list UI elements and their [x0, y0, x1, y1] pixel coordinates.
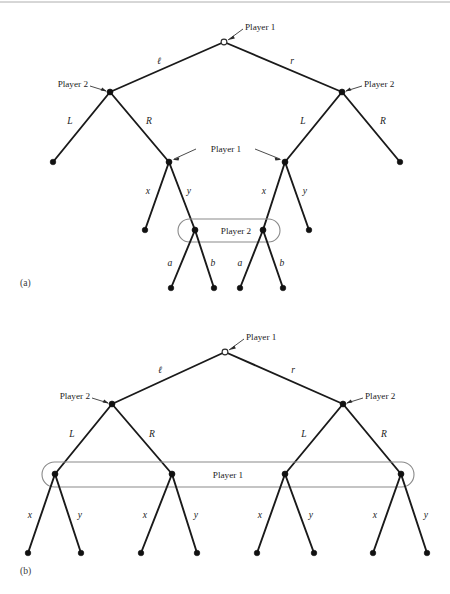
pointer-head-right-p2-b [346, 400, 352, 404]
label-right-player2-a: Player 2 [364, 79, 395, 89]
terminal-node-b-4 [194, 550, 200, 556]
pointer-head-root-a [228, 36, 235, 40]
label-action-x-b-1: x [27, 509, 33, 520]
label-root-player1-a: Player 1 [245, 22, 276, 32]
edge-infoL-a-a [171, 230, 195, 288]
edge-left-p2-L-a [53, 92, 110, 162]
label-action-x-b-4: x [372, 509, 378, 520]
edge-right-p2-R-a [342, 92, 400, 162]
label-action-R-right-b: R [380, 428, 387, 439]
label-mid-player1-a: Player 1 [211, 144, 242, 154]
label-action-x-b-2: x [142, 509, 148, 520]
node-mid-right-player1-a[interactable] [282, 159, 288, 165]
terminal-node-b-6 [311, 550, 317, 556]
pointer-head-left-p2-b [103, 400, 109, 404]
label-action-y-b-4: y [423, 509, 429, 520]
label-action-L-left-b: L [68, 428, 74, 439]
terminal-node-a-7 [237, 285, 243, 291]
node-infoset-player1-b-4[interactable] [398, 471, 404, 477]
edge-left-p2-R-b [112, 404, 172, 474]
label-action-x-right-a: x [261, 185, 267, 196]
node-infoset-player1-b-1[interactable] [52, 471, 58, 477]
edge-right-p2-L-a [285, 92, 342, 162]
label-action-l-b: ℓ [158, 364, 162, 375]
edge-root-left-b [112, 352, 225, 404]
edge-n4-x-b [373, 474, 401, 553]
node-right-player2-b[interactable] [340, 401, 346, 407]
label-action-x-b-3: x [257, 509, 263, 520]
panel-b: Player 1 Player 2 Player 2 Player 1 ℓ r … [20, 332, 430, 577]
terminal-node-a-1 [50, 159, 56, 165]
label-right-player2-b: Player 2 [365, 391, 396, 401]
terminal-node-b-8 [424, 550, 430, 556]
edge-mid-left-y-a [169, 162, 195, 230]
edge-root-right-b [225, 352, 343, 404]
node-infoset-left-player2-a[interactable] [192, 227, 198, 233]
caption-panel-b: (b) [20, 565, 31, 577]
label-action-b-left-a: b [211, 257, 216, 268]
terminal-node-a-6 [211, 285, 217, 291]
label-action-a-left-a: a [168, 257, 173, 268]
terminal-node-a-4 [306, 227, 312, 233]
node-root-player1-b[interactable] [222, 349, 228, 355]
terminal-node-a-3 [142, 227, 148, 233]
label-action-L-left-a: L [66, 115, 72, 126]
label-action-L-right-a: L [299, 115, 305, 126]
terminal-node-a-2 [397, 159, 403, 165]
pointer-head-left-p2-a [101, 88, 107, 92]
node-mid-left-player1-a[interactable] [166, 159, 172, 165]
terminal-node-a-5 [168, 285, 174, 291]
pointer-head-right-p2-a [345, 88, 351, 92]
node-infoset-right-player2-a[interactable] [260, 227, 266, 233]
label-action-y-left-a: y [186, 185, 192, 196]
terminal-node-b-5 [254, 550, 260, 556]
label-infoset-player1-b: Player 1 [213, 470, 244, 480]
edge-infoR-a-a [240, 230, 263, 288]
terminal-node-b-1 [25, 550, 31, 556]
node-infoset-player1-b-2[interactable] [169, 471, 175, 477]
label-action-r-a: r [290, 55, 294, 66]
terminal-node-a-8 [280, 285, 286, 291]
label-action-r-b: r [291, 364, 295, 375]
label-infoset-player2-a: Player 2 [221, 226, 252, 236]
pointer-head-root-b [229, 346, 236, 350]
edge-right-p2-R-b [343, 404, 401, 474]
edge-root-left-a [110, 42, 224, 92]
figure-root: Player 1 Player 2 Player 2 Player 1 Play… [0, 0, 450, 594]
node-left-player2-a[interactable] [107, 89, 113, 95]
pointer-mid-right-a [255, 149, 280, 159]
label-left-player2-a: Player 2 [58, 79, 89, 89]
edge-left-p2-L-b [55, 404, 112, 474]
game-tree-figure: Player 1 Player 2 Player 2 Player 1 Play… [0, 0, 450, 594]
label-left-player2-b: Player 2 [60, 391, 91, 401]
edge-right-p2-L-b [285, 404, 343, 474]
label-action-y-b-1: y [77, 509, 83, 520]
label-action-y-b-2: y [193, 509, 199, 520]
node-root-player1-a[interactable] [221, 39, 227, 45]
edge-root-right-a [224, 42, 342, 92]
node-right-player2-a[interactable] [339, 89, 345, 95]
label-action-R-left-a: R [145, 115, 152, 126]
edge-left-p2-R-a [110, 92, 169, 162]
edge-mid-right-y-a [285, 162, 309, 230]
node-left-player2-b[interactable] [109, 401, 115, 407]
caption-panel-a: (a) [20, 277, 31, 289]
label-action-R-right-a: R [379, 115, 386, 126]
terminal-node-b-3 [138, 550, 144, 556]
terminal-node-b-7 [370, 550, 376, 556]
pointer-mid-left-a [174, 149, 196, 159]
label-action-R-left-b: R [148, 428, 155, 439]
panel-a: Player 1 Player 2 Player 2 Player 1 Play… [20, 22, 403, 291]
label-action-L-right-b: L [300, 428, 306, 439]
label-action-b-right-a: b [280, 257, 285, 268]
label-action-y-b-3: y [308, 509, 314, 520]
label-action-l-a: ℓ [157, 55, 161, 66]
edge-mid-left-x-a [145, 162, 169, 230]
label-action-x-left-a: x [145, 185, 151, 196]
node-infoset-player1-b-3[interactable] [282, 471, 288, 477]
label-action-y-right-a: y [302, 185, 308, 196]
terminal-node-b-2 [78, 550, 84, 556]
label-root-player1-b: Player 1 [246, 332, 277, 342]
pointer-head-mid-right-a [275, 157, 282, 160]
label-action-a-right-a: a [238, 257, 243, 268]
